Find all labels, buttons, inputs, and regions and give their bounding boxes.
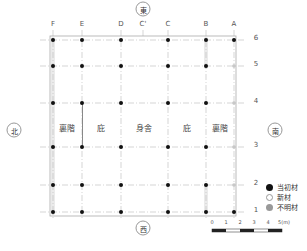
post-unknown xyxy=(232,101,236,105)
floor-plan xyxy=(0,0,307,251)
scale-tick: 3 xyxy=(252,219,255,225)
legend-label: 新材 xyxy=(277,192,291,202)
post-original xyxy=(80,64,84,68)
post-original xyxy=(51,38,55,42)
post-original xyxy=(204,210,208,214)
direction-north: 北 xyxy=(7,123,22,138)
post-original xyxy=(51,64,55,68)
scale-tick: 1 xyxy=(224,219,227,225)
post-original xyxy=(51,183,55,187)
direction-south: 南 xyxy=(268,123,283,138)
post-original xyxy=(80,183,84,187)
post-original xyxy=(119,145,123,149)
post-original xyxy=(51,101,55,105)
scale-tick: 2 xyxy=(238,219,241,225)
post-original xyxy=(51,145,55,149)
scale-tick: 4 xyxy=(266,219,269,225)
post-unknown xyxy=(232,145,236,149)
room-label: 裏階 xyxy=(59,122,75,133)
legend-item-new: 新材 xyxy=(266,192,298,202)
column-label: D xyxy=(118,21,123,28)
post-original xyxy=(204,64,208,68)
post-original xyxy=(204,38,208,42)
scale-bar xyxy=(212,229,282,232)
column-label: A xyxy=(232,21,237,28)
post-original xyxy=(80,210,84,214)
legend-item-unknown: 不明材 xyxy=(266,202,298,212)
post-original xyxy=(51,210,55,214)
scale-tick: 0 xyxy=(210,219,213,225)
post-original xyxy=(166,64,170,68)
post-original xyxy=(204,183,208,187)
row-label: 2 xyxy=(254,180,258,187)
post-original xyxy=(119,210,123,214)
post-original xyxy=(80,38,84,42)
room-label: 庇 xyxy=(183,122,191,133)
direction-west: 西 xyxy=(136,221,151,236)
column-label: E xyxy=(80,21,84,28)
row-label: 4 xyxy=(254,98,258,105)
legend-label: 当初材 xyxy=(277,182,298,192)
direction-east: 東 xyxy=(136,2,151,17)
post-original xyxy=(166,183,170,187)
post-original xyxy=(204,101,208,105)
post-original xyxy=(166,210,170,214)
post-original xyxy=(119,101,123,105)
room-label: 庇 xyxy=(97,122,105,133)
filled-circle-icon xyxy=(266,184,273,191)
post-original xyxy=(119,64,123,68)
row-label: 3 xyxy=(254,142,258,149)
column-label: C' xyxy=(140,21,147,28)
column-label: B xyxy=(204,21,209,28)
post-original xyxy=(80,145,84,149)
post-original xyxy=(204,145,208,149)
row-label: 6 xyxy=(254,35,258,42)
post-original xyxy=(166,145,170,149)
room-label: 身舎 xyxy=(136,122,152,133)
post-original xyxy=(80,101,84,105)
row-label: 1 xyxy=(254,207,258,214)
scale-tick: 5(m) xyxy=(278,219,290,225)
post-original xyxy=(166,101,170,105)
post-original xyxy=(119,183,123,187)
post-unknown xyxy=(232,64,236,68)
column-label: F xyxy=(51,21,55,28)
column-label: C xyxy=(166,21,171,28)
post-original xyxy=(166,38,170,42)
post-unknown xyxy=(232,183,236,187)
legend: 当初材 新材 不明材 xyxy=(266,182,298,212)
empty-circle-icon xyxy=(266,194,273,201)
post-original xyxy=(232,38,236,42)
legend-item-original: 当初材 xyxy=(266,182,298,192)
post-original xyxy=(232,210,236,214)
row-label: 5 xyxy=(254,61,258,68)
gray-circle-icon xyxy=(266,204,273,211)
legend-label: 不明材 xyxy=(277,202,298,212)
post-original xyxy=(119,38,123,42)
room-label: 裏階 xyxy=(212,122,228,133)
